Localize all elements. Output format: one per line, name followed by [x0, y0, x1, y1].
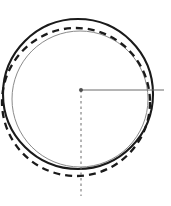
figure-canvas: [0, 0, 171, 206]
center-point-icon: [79, 88, 82, 91]
circle-diagram-svg: [0, 0, 171, 206]
